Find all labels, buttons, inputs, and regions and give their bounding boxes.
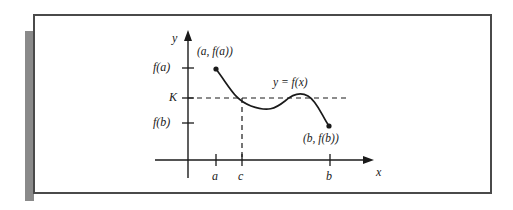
figure-frame: y x f(a) K f(b) a c b (a, f(a)) (b, f(b)…	[33, 14, 492, 194]
x-axis-label: x	[376, 166, 381, 178]
y-tick-label-K: K	[169, 91, 177, 103]
point-b-dot	[326, 123, 331, 128]
point-a-dot	[213, 66, 218, 71]
x-tick-label-a: a	[212, 170, 218, 182]
figure-root: y x f(a) K f(b) a c b (a, f(a)) (b, f(b)…	[0, 0, 513, 210]
plot-canvas	[35, 16, 490, 192]
x-axis-arrowhead	[363, 156, 374, 164]
annotation-point-a: (a, f(a))	[197, 46, 233, 58]
annotation-point-b: (b, f(b))	[303, 133, 339, 145]
y-axis-arrowhead	[184, 30, 192, 41]
x-tick-label-c: c	[238, 170, 243, 182]
y-axis-label: y	[172, 32, 177, 44]
annotation-curve-equation: y = f(x)	[273, 77, 308, 89]
y-tick-label-f-of-a: f(a)	[153, 61, 170, 73]
y-tick-label-f-of-b: f(b)	[153, 116, 170, 128]
x-tick-label-b: b	[326, 170, 332, 182]
